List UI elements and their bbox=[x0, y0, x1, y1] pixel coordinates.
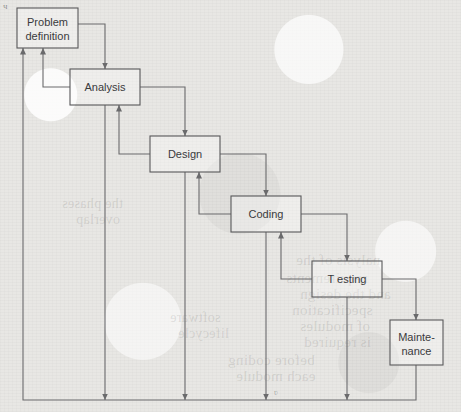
node-maintenance[interactable]: Mainte-nance bbox=[390, 320, 443, 365]
node-label-maintenance: Mainte- bbox=[398, 331, 435, 343]
connector-fwd-analysis-design bbox=[140, 87, 185, 136]
connector-fwd-coding-testing bbox=[301, 214, 347, 261]
connector-back-design-analysis bbox=[119, 105, 150, 154]
node-testing[interactable]: T esting bbox=[312, 261, 382, 297]
node-coding[interactable]: Coding bbox=[231, 196, 301, 232]
waterfall-model-diagram: ProblemdefinitionAnalysisDesignCodingT e… bbox=[0, 0, 461, 412]
connector-back-coding-design bbox=[199, 172, 231, 214]
connector-fwd-testing-maintenance bbox=[382, 279, 416, 320]
node-label2-problem: definition bbox=[25, 30, 69, 42]
node-problem[interactable]: Problemdefinition bbox=[17, 8, 78, 48]
connector-fwd-problem-analysis bbox=[78, 24, 105, 69]
node-label2-maintenance: nance bbox=[402, 345, 432, 357]
node-label-testing: T esting bbox=[328, 273, 367, 285]
diagram-page: ч ʋ nalysis of therequirementsand the de… bbox=[0, 0, 461, 412]
node-label-coding: Coding bbox=[249, 208, 284, 220]
node-box-maintenance[interactable] bbox=[390, 320, 443, 365]
node-label-analysis: Analysis bbox=[85, 81, 126, 93]
node-label-problem: Problem bbox=[27, 16, 68, 28]
connector-back-testing-coding bbox=[281, 232, 312, 279]
node-design[interactable]: Design bbox=[150, 136, 220, 172]
node-analysis[interactable]: Analysis bbox=[70, 69, 140, 105]
connector-back-analysis-problem bbox=[43, 48, 70, 87]
node-label-design: Design bbox=[168, 148, 202, 160]
node-layer: ProblemdefinitionAnalysisDesignCodingT e… bbox=[17, 8, 443, 365]
node-box-problem[interactable] bbox=[17, 8, 78, 48]
connector-fwd-design-coding bbox=[220, 154, 266, 196]
